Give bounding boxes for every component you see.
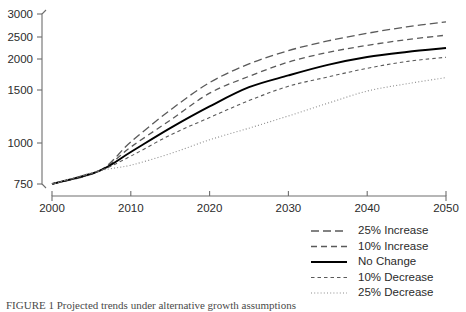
x-tick-label: 2030 xyxy=(276,202,302,214)
x-axis: 200020102020203020402050 xyxy=(39,191,459,214)
series-line-0 xyxy=(52,22,446,184)
x-tick-label: 2050 xyxy=(433,202,459,214)
y-tick-label: 3000 xyxy=(7,8,33,20)
chart-legend: 25% Increase10% IncreaseNo Change10% Dec… xyxy=(311,224,433,298)
y-tick-label: 750 xyxy=(14,178,33,190)
x-tick-label: 2010 xyxy=(118,202,144,214)
legend-label-4: 25% Decrease xyxy=(358,286,433,298)
plot-series-group xyxy=(52,22,446,184)
y-tick-label: 2500 xyxy=(7,31,33,43)
y-tick-label: 2000 xyxy=(7,53,33,65)
y-axis: 75010001500200025003000 xyxy=(7,8,46,190)
figure-caption: FIGURE 1 Projected trends under alternat… xyxy=(6,299,462,312)
line-chart: 75010001500200025003000 2000201020202030… xyxy=(0,0,466,312)
x-tick-label: 2000 xyxy=(39,202,65,214)
legend-label-0: 25% Increase xyxy=(358,224,428,236)
x-tick-label: 2040 xyxy=(354,202,380,214)
legend-label-3: 10% Decrease xyxy=(358,271,433,283)
x-tick-label: 2020 xyxy=(197,202,223,214)
y-tick-label: 1500 xyxy=(7,84,33,96)
figure-container: 75010001500200025003000 2000201020202030… xyxy=(0,0,466,312)
series-line-4 xyxy=(52,78,446,184)
legend-label-2: No Change xyxy=(358,255,416,267)
y-tick-label: 1000 xyxy=(7,137,33,149)
legend-label-1: 10% Increase xyxy=(358,240,428,252)
